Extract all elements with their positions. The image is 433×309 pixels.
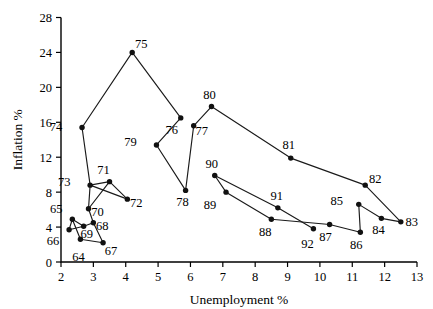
data-point-label-92: 92 [301, 237, 314, 251]
y-tick-label-28: 28 [40, 11, 53, 25]
data-point-83[interactable] [398, 219, 403, 224]
series-segment-80-81 [211, 107, 290, 159]
y-tick-label-8: 8 [46, 186, 52, 200]
data-point-label-89: 89 [204, 198, 217, 212]
series-segment-91-92 [278, 208, 314, 229]
data-point-90[interactable] [212, 173, 217, 178]
data-point-76[interactable] [178, 115, 183, 120]
data-point-88[interactable] [269, 217, 274, 222]
y-tick-label-0: 0 [46, 256, 52, 270]
series-segment-88-89 [226, 192, 271, 219]
data-point-label-75: 75 [135, 37, 148, 51]
data-point-label-71: 71 [97, 163, 110, 177]
data-point-label-82: 82 [369, 172, 382, 186]
x-tick-label-9: 9 [284, 270, 290, 284]
x-tick-label-8: 8 [252, 270, 258, 284]
x-tick-label-5: 5 [155, 270, 161, 284]
series-segment-74-75 [82, 52, 132, 127]
series-segment-78-77 [186, 126, 194, 191]
data-point-92[interactable] [311, 226, 316, 231]
data-point-79[interactable] [154, 142, 159, 147]
y-tick-label-4: 4 [46, 221, 53, 235]
x-tick-label-11: 11 [346, 270, 358, 284]
data-point-71[interactable] [107, 179, 112, 184]
series-segment-71-72 [110, 182, 128, 199]
chart-page: 04812162024282345678910111213Unemploymen… [0, 0, 433, 309]
data-point-label-79: 79 [124, 135, 137, 149]
data-point-81[interactable] [288, 155, 293, 160]
data-point-label-77: 77 [195, 124, 208, 138]
data-point-label-64: 64 [72, 250, 85, 264]
series-segment-73-74 [82, 128, 90, 186]
series-segment-72-73 [90, 185, 127, 199]
y-axis-title: Inflation % [10, 109, 25, 170]
data-point-73[interactable] [87, 182, 92, 187]
x-axis-title: Unemployment % [190, 292, 289, 307]
series-segment-84-85 [359, 204, 382, 218]
data-point-label-91: 91 [271, 189, 284, 203]
x-tick-label-13: 13 [411, 270, 424, 284]
data-point-label-85: 85 [331, 194, 344, 208]
y-tick-label-12: 12 [40, 151, 53, 165]
x-tick-label-2: 2 [58, 270, 64, 284]
data-point-85[interactable] [356, 202, 361, 207]
series-segment-75-76 [132, 52, 181, 117]
series-segment-81-82 [291, 158, 365, 185]
y-tick-label-20: 20 [40, 81, 53, 95]
data-point-74[interactable] [79, 125, 84, 130]
series-segment-79-78 [156, 145, 185, 190]
x-tick-label-6: 6 [187, 270, 193, 284]
data-point-label-74: 74 [50, 120, 63, 134]
data-point-91[interactable] [275, 205, 280, 210]
series-segment-73-70 [89, 185, 91, 209]
x-tick-label-7: 7 [220, 270, 226, 284]
phillips-curve-chart: 04812162024282345678910111213Unemploymen… [0, 0, 433, 309]
data-point-label-67: 67 [105, 244, 118, 258]
data-point-80[interactable] [209, 104, 214, 109]
data-point-label-90: 90 [205, 157, 218, 171]
data-point-label-68: 68 [96, 219, 109, 233]
x-tick-label-3: 3 [90, 270, 96, 284]
data-point-label-81: 81 [283, 138, 296, 152]
data-point-78[interactable] [183, 188, 188, 193]
data-point-label-76: 76 [166, 123, 179, 137]
data-point-label-88: 88 [259, 225, 272, 239]
data-point-label-73: 73 [58, 175, 71, 189]
data-point-label-66: 66 [47, 234, 60, 248]
x-tick-label-12: 12 [378, 270, 391, 284]
axis-lines [61, 18, 417, 263]
data-point-label-78: 78 [176, 195, 189, 209]
data-point-84[interactable] [379, 216, 384, 221]
y-tick-label-24: 24 [40, 46, 53, 60]
data-point-82[interactable] [363, 182, 368, 187]
series-segment-85-86 [359, 204, 361, 232]
x-tick-label-4: 4 [123, 270, 130, 284]
data-point-label-84: 84 [372, 223, 385, 237]
data-point-label-69: 69 [80, 227, 93, 241]
data-point-label-65: 65 [50, 202, 63, 216]
data-point-label-86: 86 [350, 238, 363, 252]
data-point-label-87: 87 [319, 230, 332, 244]
data-point-86[interactable] [358, 230, 363, 235]
data-point-label-83: 83 [406, 215, 419, 229]
series-segment-86-87 [330, 224, 361, 232]
data-point-label-80: 80 [203, 88, 216, 102]
data-point-label-72: 72 [130, 196, 143, 210]
data-point-label-70: 70 [91, 205, 104, 219]
data-point-65[interactable] [70, 217, 75, 222]
data-point-89[interactable] [223, 189, 228, 194]
data-point-87[interactable] [327, 222, 332, 227]
x-tick-label-10: 10 [314, 270, 327, 284]
data-point-66[interactable] [66, 227, 71, 232]
